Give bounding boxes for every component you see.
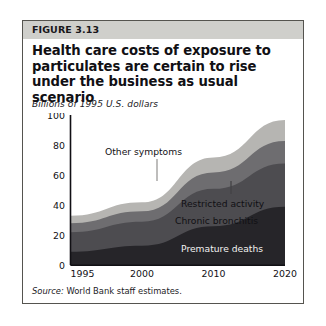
chart-plot-area: 020406080100 1995200020102020 Other symp… <box>23 113 305 281</box>
figure-box: FIGURE 3.13 Health care costs of exposur… <box>22 20 304 304</box>
x-tick-label: 2000 <box>130 268 154 279</box>
stacked-area-chart: 020406080100 1995200020102020 Other symp… <box>23 113 305 281</box>
series-label-other-symptoms: Other symptoms <box>105 146 182 157</box>
x-tick-label: 2020 <box>273 268 297 279</box>
x-axis-tick-labels: 1995200020102020 <box>71 268 297 279</box>
figure-title: Health care costs of exposure to particu… <box>32 43 294 105</box>
series-label-premature-deaths: Premature deaths <box>181 243 263 254</box>
figure-source-note: Source: World Bank staff estimates. <box>32 286 182 296</box>
figure-header-band: FIGURE 3.13 <box>23 21 303 39</box>
y-tick-label: 100 <box>47 113 65 121</box>
y-tick-label: 60 <box>53 170 65 181</box>
source-prefix: Source: <box>32 286 64 296</box>
y-tick-label: 80 <box>53 140 65 151</box>
figure-subtitle-axis-units: Billions of 1995 U.S. dollars <box>32 99 158 109</box>
y-axis-tick-labels: 020406080100 <box>47 113 65 271</box>
series-label-restricted-activity: Restricted activity <box>181 198 265 209</box>
x-tick-label: 2010 <box>202 268 226 279</box>
y-tick-label: 40 <box>53 200 65 211</box>
y-tick-label: 20 <box>53 230 65 241</box>
figure-number-label: FIGURE 3.13 <box>32 24 99 35</box>
x-tick-label: 1995 <box>71 268 95 279</box>
series-label-chronic-bronchitis: Chronic bronchitis <box>175 215 258 226</box>
source-text: World Bank staff estimates. <box>64 286 182 296</box>
y-tick-label: 0 <box>59 260 65 271</box>
